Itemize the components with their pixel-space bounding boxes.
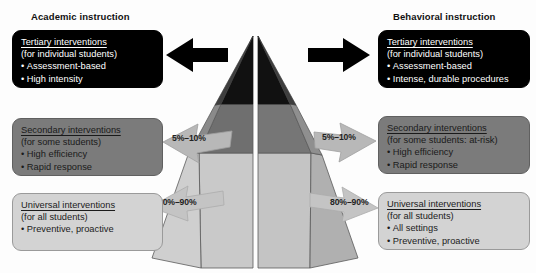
box-heading: Tertiary interventions <box>387 36 521 48</box>
box-behavioral-tertiary: Tertiary interventions (for individual s… <box>378 30 530 88</box>
box-bullet: High efficiency <box>21 148 154 161</box>
percent-label-right-secondary: 5%–10% <box>322 132 356 142</box>
box-heading: Universal interventions <box>387 198 521 210</box>
box-subtitle: (for some students: at-risk) <box>387 134 521 146</box>
box-subtitle: (for individual students) <box>21 48 154 60</box>
percent-label-left-secondary: 5%–10% <box>172 133 206 143</box>
box-bullet: Preventive, proactive <box>21 223 154 236</box>
box-subtitle: (for all students) <box>387 210 521 222</box>
box-bullet: High efficiency <box>387 146 521 159</box>
box-heading: Secondary interventions <box>387 122 521 134</box>
box-bullet: Rapid response <box>21 161 154 174</box>
triangle-of-support-diagram: Academic instruction Behavioral instruct… <box>0 0 536 273</box>
box-behavioral-secondary: Secondary interventions (for some studen… <box>378 116 530 174</box>
box-bullet: Rapid response <box>387 159 521 172</box>
box-heading: Secondary interventions <box>21 124 154 136</box>
percent-label-right-universal: 80%–90% <box>330 197 368 207</box>
box-bullet: High intensity <box>21 73 154 86</box>
percent-label-left-universal: 80%–90% <box>158 197 196 207</box>
box-subtitle: (for some students) <box>21 136 154 148</box>
arrow-left-tertiary <box>166 38 228 72</box>
box-behavioral-universal: Universal interventions (for all student… <box>378 192 530 250</box>
box-bullet: All settings <box>387 222 521 235</box>
box-bullet: Assessment-based <box>21 60 154 73</box>
box-academic-tertiary: Tertiary interventions (for individual s… <box>12 30 163 88</box>
arrow-right-secondary <box>314 123 376 162</box>
box-academic-universal: Universal interventions (for all student… <box>12 193 163 251</box>
box-heading: Universal interventions <box>21 199 154 211</box>
box-heading: Tertiary interventions <box>21 36 154 48</box>
arrow-right-tertiary <box>308 38 370 72</box>
box-bullet: Assessment-based <box>387 60 521 73</box>
box-bullet: Preventive, proactive <box>387 235 521 248</box>
box-bullet: Intense, durable procedures <box>387 73 521 86</box>
box-academic-secondary: Secondary interventions (for some studen… <box>12 118 163 176</box>
box-subtitle: (for all students) <box>21 211 154 223</box>
box-subtitle: (for individual students) <box>387 48 521 60</box>
